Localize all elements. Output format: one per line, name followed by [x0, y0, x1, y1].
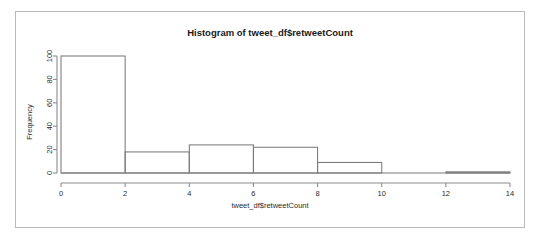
- y-tick-label: 80: [45, 75, 54, 83]
- histogram-svg: Histogram of tweet_df$retweetCount Frequ…: [16, 12, 524, 227]
- histogram-bar: [189, 145, 253, 173]
- x-tick-label: 14: [506, 189, 514, 198]
- histogram-bar: [61, 56, 125, 173]
- x-axis: 02468101214: [59, 183, 514, 198]
- histogram-plot: Histogram of tweet_df$retweetCount Frequ…: [16, 12, 524, 227]
- x-tick-label: 12: [442, 189, 450, 198]
- screenshot-root: Histogram of tweet_df$retweetCount Frequ…: [0, 0, 540, 244]
- chart-title: Histogram of tweet_df$retweetCount: [187, 27, 354, 38]
- x-tick-label: 8: [315, 189, 319, 198]
- x-tick-label: 4: [187, 189, 191, 198]
- x-tick-label: 10: [378, 189, 386, 198]
- y-tick-label: 60: [45, 99, 54, 107]
- y-tick-label: 20: [45, 145, 54, 153]
- x-tick-label: 0: [59, 189, 63, 198]
- y-tick-label: 100: [45, 50, 54, 63]
- x-tick-label: 6: [251, 189, 255, 198]
- plot-image-frame: Histogram of tweet_df$retweetCount Frequ…: [15, 11, 525, 228]
- histogram-bars: [61, 56, 510, 173]
- histogram-bar: [253, 147, 317, 173]
- x-axis-label: tweet_df$retweetCount: [231, 201, 309, 210]
- y-tick-label: 40: [45, 122, 54, 130]
- x-tick-label: 2: [123, 189, 127, 198]
- histogram-bar: [125, 152, 189, 173]
- histogram-bar: [318, 162, 382, 173]
- y-tick-label: 0: [45, 171, 54, 175]
- y-axis-label: Frequency: [25, 104, 34, 140]
- y-axis: 020406080100: [45, 50, 57, 175]
- histogram-bar: [446, 172, 510, 173]
